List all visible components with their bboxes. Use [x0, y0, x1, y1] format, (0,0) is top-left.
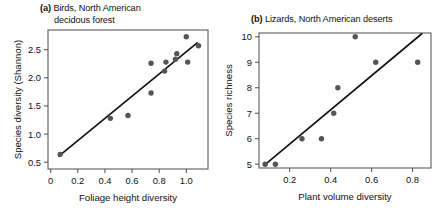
- data-point: [273, 161, 278, 166]
- data-point: [373, 60, 378, 65]
- figure-container: (a) Birds, North American decidous fores…: [0, 0, 438, 213]
- y-tick-label: 10: [242, 31, 252, 42]
- data-point: [319, 136, 324, 141]
- x-tick-label: 0.6: [126, 175, 139, 186]
- y-tick-label: 0.5: [28, 157, 41, 168]
- data-point: [353, 34, 358, 39]
- data-point: [174, 51, 179, 56]
- data-point: [58, 152, 63, 157]
- data-point: [196, 43, 201, 48]
- y-tick-label: 2.0: [28, 72, 41, 83]
- x-tick-label: 0.4: [98, 175, 111, 186]
- x-tick-label: 0.2: [283, 174, 296, 185]
- regression-line: [264, 34, 422, 166]
- x-tick-label: 0.8: [153, 175, 166, 186]
- y-tick-label: 1.5: [28, 100, 41, 111]
- x-tick-label: 1.0: [180, 175, 193, 186]
- data-point: [148, 90, 153, 95]
- data-point: [184, 34, 189, 39]
- y-tick-label: 7: [247, 108, 252, 119]
- x-tick-label: 0.2: [71, 175, 84, 186]
- data-point: [299, 136, 304, 141]
- data-point: [335, 85, 340, 90]
- chart-panel-b: (b) Lizards, North American deserts 0.20…: [219, 0, 438, 213]
- x-axis-label: Foliage height diversity: [79, 192, 177, 203]
- panel-a-plot: 00.20.40.60.81.00.51.01.52.02.5Foliage h…: [0, 0, 219, 213]
- x-tick-label: 0: [48, 175, 53, 186]
- y-tick-label: 2.5: [28, 44, 41, 55]
- data-point: [262, 161, 267, 166]
- y-tick-label: 5: [247, 159, 252, 170]
- x-tick-label: 0.6: [365, 174, 378, 185]
- x-tick-label: 0.8: [406, 174, 419, 185]
- y-tick-label: 8: [247, 82, 252, 93]
- data-point: [148, 61, 153, 66]
- data-point: [108, 116, 113, 121]
- data-point: [185, 59, 190, 64]
- y-tick-label: 9: [247, 57, 252, 68]
- y-axis-label: Species richness: [223, 64, 234, 137]
- x-axis-label: Plant volume diversity: [298, 191, 392, 202]
- data-point: [163, 59, 168, 64]
- data-point: [162, 68, 167, 73]
- data-point: [331, 111, 336, 116]
- y-axis-label: Species diversity (Shannon): [12, 40, 23, 159]
- panel-b-plot: 0.20.40.60.85678910Plant volume diversit…: [219, 0, 438, 213]
- chart-panel-a: (a) Birds, North American decidous fores…: [0, 0, 219, 213]
- x-tick-label: 0.4: [324, 174, 337, 185]
- y-tick-label: 6: [247, 133, 252, 144]
- data-point: [173, 57, 178, 62]
- data-point: [125, 113, 130, 118]
- data-point: [415, 60, 420, 65]
- y-tick-label: 1.0: [28, 129, 41, 140]
